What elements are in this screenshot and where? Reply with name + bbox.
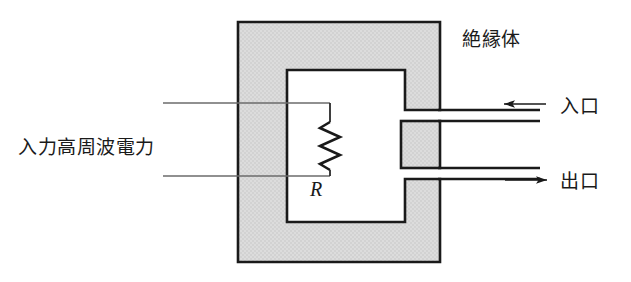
label-resistor: R [310, 178, 322, 201]
outlet-channel [438, 168, 540, 179]
resistor-zigzag-icon [320, 103, 340, 176]
label-input-power: 入力高周波電力 [18, 132, 155, 159]
label-insulator: 絶縁体 [462, 24, 521, 51]
label-outlet: 出口 [560, 166, 599, 193]
inlet-channel [438, 110, 540, 121]
diagram-figure: 絶縁体 入口 出口 入力高周波電力 R [0, 0, 631, 282]
label-inlet: 入口 [560, 91, 599, 118]
center-tongue [401, 121, 440, 168]
